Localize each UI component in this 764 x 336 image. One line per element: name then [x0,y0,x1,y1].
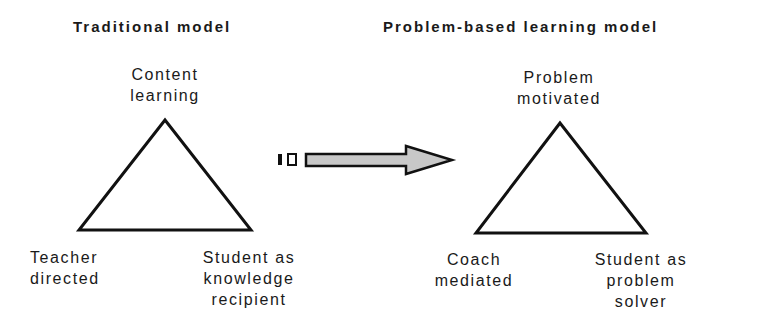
label-line: Student as [582,249,700,270]
label-line: motivated [500,88,618,109]
label-content-learning: Content learning [112,64,218,106]
label-line: Student as [190,247,308,268]
pbl-triangle [476,123,646,233]
label-coach-mediated: Coach mediated [424,249,524,291]
pbl-model-title: Problem-based learning model [383,18,658,35]
label-problem-motivated: Problem motivated [500,67,618,109]
traditional-triangle [79,120,251,230]
label-student-knowledge-recipient: Student as knowledge recipient [190,247,308,310]
label-line: problem [582,270,700,291]
label-line: recipient [190,289,308,310]
label-line: Teacher [30,247,130,268]
label-line: knowledge [190,268,308,289]
transition-arrow-icon [278,146,452,174]
label-teacher-directed: Teacher directed [30,247,130,289]
label-line: mediated [424,270,524,291]
label-line: Problem [500,67,618,88]
label-line: Content [112,64,218,85]
label-line: solver [582,291,700,312]
label-line: directed [30,268,130,289]
traditional-model-title: Traditional model [73,18,231,35]
label-line: learning [112,85,218,106]
label-student-problem-solver: Student as problem solver [582,249,700,312]
label-line: Coach [424,249,524,270]
